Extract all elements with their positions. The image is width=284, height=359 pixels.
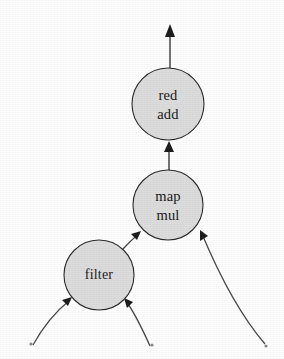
dataflow-graph: red add map mul filter xyxy=(0,0,284,359)
edge-red-to-output-arrowhead xyxy=(165,24,175,37)
node-red-add-label-line2: add xyxy=(157,106,179,122)
edge-source-left-to-filter-path xyxy=(33,300,70,345)
edge-source-right-to-map xyxy=(200,230,265,344)
edge-map-to-red-arrowhead xyxy=(164,141,174,152)
node-map-mul[interactable]: map mul xyxy=(133,170,203,240)
node-filter-label: filter xyxy=(85,267,114,282)
node-red-add[interactable]: red add xyxy=(132,68,204,140)
node-red-add-shape[interactable] xyxy=(132,68,204,140)
edge-source-mid-to-filter-path xyxy=(126,301,150,346)
edge-filter-to-map xyxy=(122,231,141,250)
source-dot-mid xyxy=(150,343,153,346)
edge-source-left-to-filter xyxy=(33,297,72,345)
diagram-canvas: red add map mul filter xyxy=(0,0,284,359)
edge-map-to-red xyxy=(164,141,174,170)
node-map-mul-shape[interactable] xyxy=(133,170,203,240)
edge-source-mid-to-filter xyxy=(124,298,150,346)
edge-source-left-to-filter-arrowhead xyxy=(62,297,72,306)
node-red-add-label-line1: red xyxy=(158,87,178,103)
edge-source-right-to-map-path xyxy=(202,234,265,344)
node-map-mul-label-line1: map xyxy=(155,188,181,204)
edge-source-mid-to-filter-arrowhead xyxy=(124,298,133,308)
edge-red-to-output xyxy=(165,24,175,68)
node-filter[interactable]: filter xyxy=(64,240,134,310)
source-dot-left xyxy=(29,342,32,345)
source-dot-right xyxy=(264,344,267,347)
node-map-mul-label-line2: mul xyxy=(156,207,179,223)
